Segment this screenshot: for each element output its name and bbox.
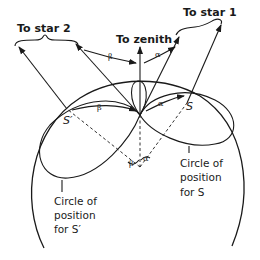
star1-brace [176, 19, 222, 35]
navigation-diagram: β α β α β α S S′ To star 2 To zenith To … [0, 0, 260, 260]
alpha-arc-mid [146, 96, 184, 111]
alpha-label-bottom: α [143, 154, 149, 163]
circle-s-line1: Circle of [180, 157, 223, 169]
circle-s-prime-line3: for S′ [54, 223, 81, 235]
circle-s-line2: position [180, 171, 222, 183]
circle-of-position-s-prime [40, 101, 140, 178]
circle-s-prime-line1: Circle of [54, 195, 97, 207]
to-star-2-label: To star 2 [17, 22, 71, 35]
alpha-label-mid: α [158, 99, 164, 108]
alpha-label-top: α [155, 50, 161, 59]
beta-label-mid: β [97, 103, 102, 112]
star2-ray-sprime [19, 47, 67, 109]
s-point-label: S [186, 100, 193, 113]
to-star-1-label: To star 1 [183, 6, 237, 19]
circle-s-line3: for S [180, 186, 205, 198]
beta-arc-mid [72, 106, 136, 111]
beta-label-top: β [108, 52, 113, 61]
star2-brace [15, 35, 78, 46]
circle-s-prime-line2: position [54, 209, 96, 221]
beta-label-bottom: β [129, 159, 134, 168]
star1-ray-s [187, 25, 221, 103]
to-zenith-label: To zenith [116, 33, 172, 46]
s-prime-point-label: S′ [63, 114, 73, 127]
